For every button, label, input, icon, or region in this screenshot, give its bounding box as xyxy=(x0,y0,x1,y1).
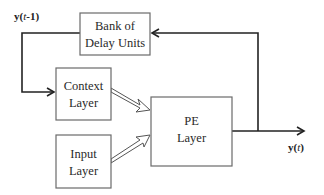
diagram-canvas: Bank of Delay Units Context Layer Input … xyxy=(0,0,324,195)
pe-layer-label-line1: PE xyxy=(184,114,199,128)
context-layer-label-line2: Layer xyxy=(69,96,99,110)
input-layer-box: Input Layer xyxy=(56,135,111,188)
delay-units-box: Bank of Delay Units xyxy=(80,13,150,55)
context-layer-label-line1: Context xyxy=(64,79,104,93)
input-to-pe-arrow xyxy=(111,135,150,163)
input-layer-label-line2: Layer xyxy=(69,164,99,178)
context-layer-box: Context Layer xyxy=(56,68,111,120)
feedback-label: y(t-1) xyxy=(14,10,39,23)
pe-layer-box: PE Layer xyxy=(151,97,232,166)
delay-units-label-line1: Bank of xyxy=(95,19,136,33)
context-to-pe-arrow xyxy=(111,88,150,112)
pe-layer-label-line2: Layer xyxy=(177,131,207,145)
delay-units-label-line2: Delay Units xyxy=(85,36,145,50)
input-layer-label-line1: Input xyxy=(70,147,97,161)
output-label: y(t) xyxy=(288,141,304,154)
